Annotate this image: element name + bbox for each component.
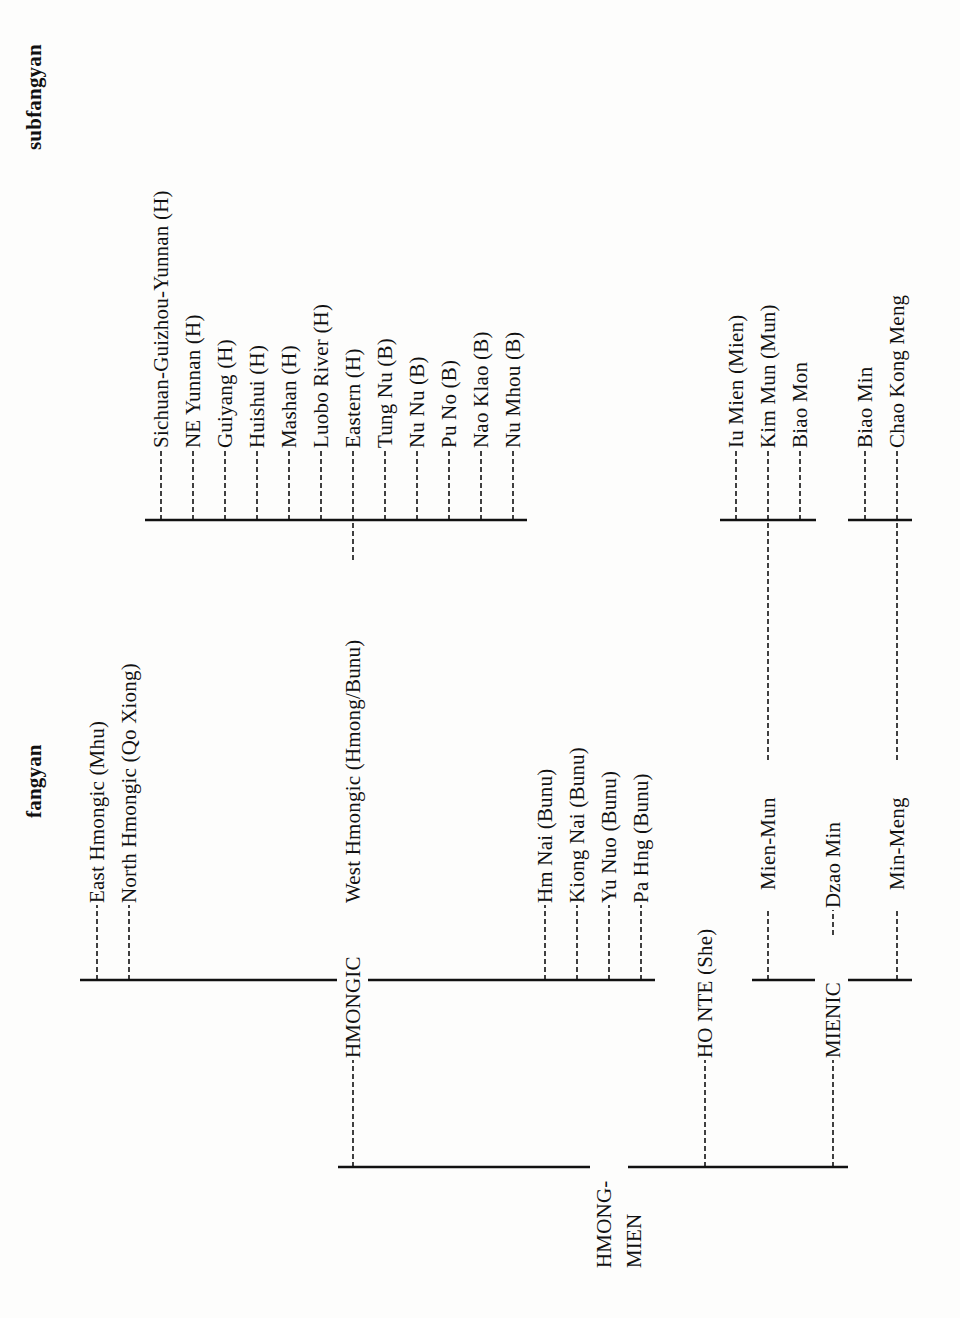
sub-guiyang: Guiyang (H) [215, 339, 236, 448]
sub-huishui: Huishui (H) [247, 345, 268, 448]
sub-biao-mon: Biao Mon [790, 362, 811, 448]
root-label-line1: HMONG- [594, 1180, 615, 1268]
sub-iu-mien: Iu Mien (Mien) [726, 315, 747, 448]
fangyan-kiong-nai: Kiong Nai (Bunu) [567, 747, 588, 903]
sub-sgy: Sichuan-Guizhou-Yunnan (H) [151, 190, 172, 448]
fangyan-yu-nuo: Yu Nuo (Bunu) [599, 771, 620, 903]
fangyan-east-hmongic: East Hmongic (Mhu) [87, 721, 108, 903]
fangyan-min-meng: Min-Meng [887, 797, 908, 890]
sub-chao-kong-meng: Chao Kong Meng [887, 295, 908, 448]
sub-mashan: Mashan (H) [279, 345, 300, 448]
branch-hmongic: HMONGIC [343, 956, 364, 1058]
fangyan-mien-mun: Mien-Mun [758, 797, 779, 890]
sub-pu-no: Pu No (B) [439, 360, 460, 448]
header-fangyan: fangyan [24, 744, 45, 818]
sub-nao-klao: Nao Klao (B) [471, 331, 492, 448]
fangyan-dzao-min: Dzao Min [823, 822, 844, 908]
sub-kim-mun: Kim Mun (Mun) [758, 304, 779, 448]
header-subfangyan: subfangyan [24, 44, 45, 150]
sub-biao-min: Biao Min [855, 366, 876, 448]
branch-mienic: MIENIC [823, 982, 844, 1058]
branch-honte: HO NTE (She) [695, 928, 716, 1058]
sub-tung-nu: Tung Nu (B) [375, 338, 396, 448]
tree-lines [0, 0, 960, 1318]
sub-luobo-river: Luobo River (H) [311, 304, 332, 448]
sub-nu-mhou: Nu Mhou (B) [503, 331, 524, 448]
root-label-line2: MIEN [624, 1214, 645, 1268]
sub-ne-yunnan: NE Yunnan (H) [183, 314, 204, 448]
fangyan-west-hmongic: West Hmongic (Hmong/Bunu) [343, 640, 364, 903]
fangyan-hm-nai: Hm Nai (Bunu) [535, 769, 556, 903]
fangyan-pa-hng: Pa Hng (Bunu) [631, 773, 652, 903]
fangyan-north-hmongic: North Hmongic (Qo Xiong) [119, 663, 140, 903]
sub-nu-nu: Nu Nu (B) [407, 356, 428, 448]
sub-eastern: Eastern (H) [343, 348, 364, 448]
